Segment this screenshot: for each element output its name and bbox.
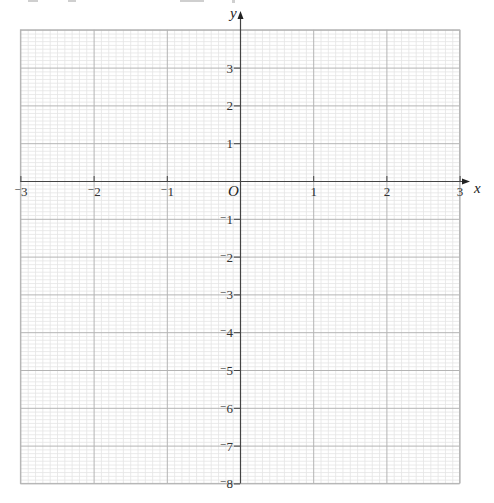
x-tick-label: 1 [310,184,317,199]
y-tick-label: ⁻5 [220,363,233,378]
coordinate-grid: ⁻3⁻2⁻1123 321⁻1⁻2⁻3⁻4⁻5⁻6⁻7⁻8 x y O [0,0,494,503]
x-tick-label: ⁻2 [87,184,100,199]
x-tick-label: ⁻1 [161,184,174,199]
y-tick-label: ⁻2 [220,250,233,265]
y-tick-label: ⁻8 [220,476,233,491]
y-tick-label: ⁻7 [220,439,234,454]
x-tick-label: 3 [457,184,464,199]
y-axis-label: y [228,5,237,21]
y-tick-label: ⁻4 [220,325,234,340]
y-tick-label: ⁻3 [220,287,233,302]
y-tick-label: ⁻6 [220,401,234,416]
y-tick-label: 3 [227,61,234,76]
x-tick-label: 2 [384,184,391,199]
x-axis-label: x [473,180,481,196]
y-tick-label: 1 [227,136,234,151]
x-tick-label: ⁻3 [14,184,27,199]
y-tick-label: ⁻1 [220,212,233,227]
y-tick-label: 2 [227,98,234,113]
origin-label: O [228,183,239,199]
